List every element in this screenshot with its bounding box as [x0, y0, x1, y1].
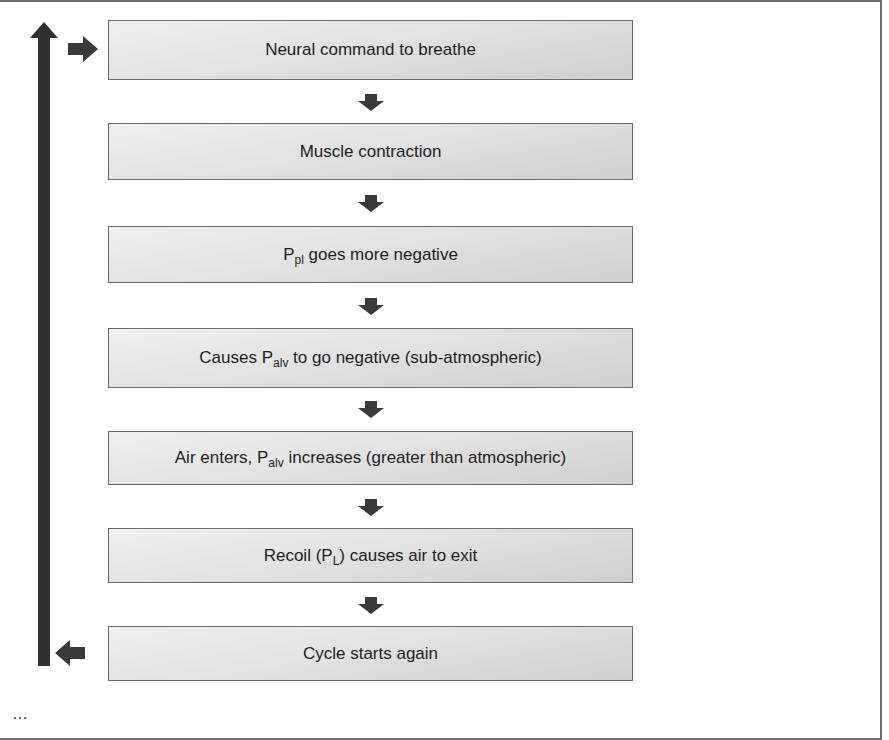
- arrow-down-icon: [358, 401, 384, 418]
- step-label: Recoil (PL) causes air to exit: [264, 546, 478, 566]
- step-box-muscle-contraction: Muscle contraction: [108, 123, 633, 180]
- step-label: Neural command to breathe: [265, 40, 476, 60]
- arrow-down-icon: [358, 94, 384, 111]
- loop-back-arrow-icon: [30, 22, 58, 666]
- arrow-down-icon: [358, 298, 384, 315]
- step-box-air-enters: Air enters, Palv increases (greater than…: [108, 431, 633, 485]
- step-label: Cycle starts again: [303, 644, 438, 664]
- clipped-caption: …: [12, 705, 29, 723]
- step-label: Causes Palv to go negative (sub-atmosphe…: [199, 348, 541, 368]
- step-label: Ppl goes more negative: [283, 245, 458, 265]
- step-box-ppl-negative: Ppl goes more negative: [108, 226, 633, 283]
- step-box-recoil: Recoil (PL) causes air to exit: [108, 528, 633, 583]
- arrow-left-icon: [55, 640, 85, 666]
- step-box-neural-command: Neural command to breathe: [108, 20, 633, 80]
- arrow-down-icon: [358, 499, 384, 516]
- arrow-down-icon: [358, 195, 384, 212]
- step-box-cycle-again: Cycle starts again: [108, 626, 633, 681]
- step-label: Muscle contraction: [300, 142, 442, 162]
- step-label: Air enters, Palv increases (greater than…: [175, 448, 566, 468]
- step-box-palv-negative: Causes Palv to go negative (sub-atmosphe…: [108, 328, 633, 388]
- arrow-right-icon: [68, 36, 98, 62]
- arrow-down-icon: [358, 597, 384, 614]
